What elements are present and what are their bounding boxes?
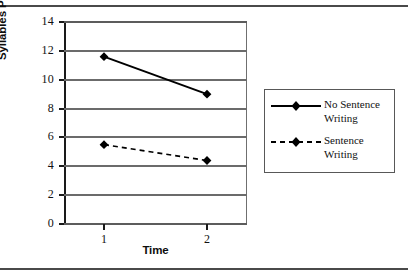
x-tick-label: 2 [192,232,222,247]
top-divider-rule [0,5,408,7]
data-point-marker [203,90,212,99]
data-point-marker [100,140,109,149]
legend-solid-line-icon [270,98,322,114]
legend-dashed-line-icon [270,134,322,150]
legend-label-sentence-writing: Sentence Writing [322,134,364,161]
data-point-marker [100,52,109,61]
legend-label-no-sentence-writing: No Sentence Writing [322,98,380,125]
legend-box: No Sentence Writing Sentence Writing [264,89,395,173]
y-tick-label: 12 [10,43,54,58]
series-layer [64,22,247,224]
y-tick-label: 14 [10,14,54,29]
y-tick-label: 6 [10,129,54,144]
bottom-divider-rule [0,268,408,270]
figure-container: Syllables Produced Time 02468101214 12 N… [0,0,408,278]
y-tick-label: 10 [10,72,54,87]
x-tick-label: 1 [89,232,119,247]
y-tick-label: 4 [10,158,54,173]
y-axis-title: Syllables Produced [0,0,8,60]
y-tick-label: 0 [10,216,54,231]
legend-item-sentence-writing: Sentence Writing [265,134,394,161]
series-line-0 [104,57,207,95]
legend-swatch-solid-diamond [270,98,322,114]
x-tick-mark [103,224,105,230]
series-line-1 [104,145,207,161]
plot-area: 02468101214 12 [64,22,247,224]
x-tick-mark [206,224,208,230]
y-tick-label: 8 [10,101,54,116]
legend-item-no-sentence-writing: No Sentence Writing [265,98,394,125]
y-tick-label: 2 [10,187,54,202]
legend-swatch-dashed-diamond [270,134,322,150]
data-point-marker [203,156,212,165]
